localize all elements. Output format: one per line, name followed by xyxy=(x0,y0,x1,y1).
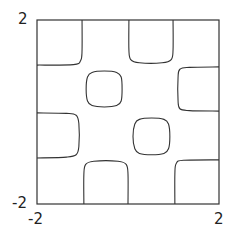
contour-plot xyxy=(0,0,237,242)
contour-right-c xyxy=(178,67,219,111)
contour-lines xyxy=(37,20,219,204)
contour-bottom-right-corner xyxy=(175,160,219,204)
contour-top-left-corner xyxy=(37,20,82,65)
y-axis-max-label: 2 xyxy=(18,12,28,27)
x-axis-max-label: 2 xyxy=(214,212,224,227)
contour-bottom-center-u xyxy=(84,161,128,204)
contour-lower-right-blob xyxy=(133,118,170,155)
contour-top-center-u xyxy=(129,20,173,63)
x-axis-min-label: -2 xyxy=(28,212,43,227)
y-axis-min-label: -2 xyxy=(12,196,27,211)
contour-upper-left-blob xyxy=(86,71,122,107)
contour-left-d xyxy=(37,113,79,158)
